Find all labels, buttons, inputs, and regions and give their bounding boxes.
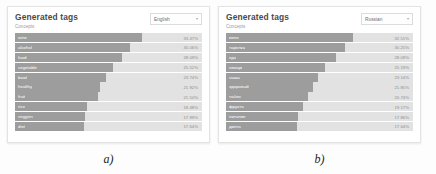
tag-bar-row[interactable]: тарелка30.25% (226, 43, 413, 52)
title-block-a: Generated tags Concepts (15, 12, 78, 30)
tag-bar-fill (15, 33, 142, 42)
tag-bar-label: diet (15, 124, 25, 129)
tag-bar-percent: 17.64% (394, 124, 409, 129)
tag-bar-percent: 28.09% (183, 55, 198, 60)
tag-bar-row[interactable]: healthy21.92% (15, 82, 202, 91)
tag-bar-row[interactable]: alcohol30.06% (15, 43, 202, 52)
tag-bar-row[interactable]: здоровый21.85% (226, 82, 413, 91)
language-select-a[interactable]: English ▾ (150, 13, 202, 25)
tag-bar-label: rice (15, 104, 25, 109)
tag-bar-fill (15, 102, 87, 111)
tag-bar-percent: 23.14% (394, 75, 409, 80)
tag-bar-percent: 17.99% (183, 114, 198, 119)
tag-bar-label: вино (226, 35, 239, 40)
tag-bar-fill (15, 73, 106, 82)
card-header-a: Generated tags Concepts English ▾ (8, 7, 209, 30)
tag-bar-row[interactable]: овощи25.19% (226, 63, 413, 72)
tag-bar-fill (15, 43, 130, 52)
tag-bar-row[interactable]: табло20.74% (226, 92, 413, 101)
panel-a: Generated tags Concepts English ▾ wine33… (7, 6, 210, 166)
tag-bar-label: фрукты (226, 104, 244, 109)
tag-bar-percent: 20.74% (394, 94, 409, 99)
tag-bar-percent: 19.17% (394, 104, 409, 109)
chevron-down-icon: ▾ (407, 17, 409, 21)
figure-caption-b: b) (315, 152, 325, 166)
tag-bar-percent: 21.50% (183, 94, 198, 99)
tag-bar-fill (226, 73, 318, 82)
tag-bar-label: чаша (226, 75, 240, 80)
chevron-down-icon: ▾ (196, 17, 198, 21)
title-block-b: Generated tags Concepts (226, 12, 289, 30)
tag-bar-fill (15, 92, 98, 101)
tag-bar-label: food (15, 55, 27, 60)
tag-bar-label: диета (226, 124, 241, 129)
card-subtitle: Concepts (15, 23, 78, 30)
tag-bar-row[interactable]: диета17.64% (226, 122, 413, 131)
tag-bar-label: veggies (15, 114, 33, 119)
tag-bar-percent: 33.47% (183, 35, 198, 40)
tag-bar-row[interactable]: еда28.09% (226, 53, 413, 62)
tag-bar-list-b: вино32.51%тарелка30.25%еда28.09%овощи25.… (219, 33, 420, 131)
tag-bar-label: тарелка (226, 45, 245, 50)
language-select-b[interactable]: Russian ▾ (361, 13, 413, 25)
tag-bar-row[interactable]: bowl23.74% (15, 73, 202, 82)
tag-bar-label: табло (226, 94, 241, 99)
figure-container: Generated tags Concepts English ▾ wine33… (0, 0, 436, 174)
tag-bar-percent: 21.92% (183, 84, 198, 89)
tag-bar-percent: 30.06% (183, 45, 198, 50)
tag-bar-percent: 25.52% (183, 65, 198, 70)
tag-bar-fill (15, 53, 122, 62)
tag-bar-percent: 30.25% (394, 45, 409, 50)
tag-bar-percent: 17.86% (394, 114, 409, 119)
tag-bar-row[interactable]: veggies17.99% (15, 112, 202, 121)
tag-bar-label: bowl (15, 75, 27, 80)
panels-row: Generated tags Concepts English ▾ wine33… (0, 0, 436, 166)
tag-bar-row[interactable]: fruit21.50% (15, 92, 202, 101)
card-header-b: Generated tags Concepts Russian ▾ (219, 7, 420, 30)
tag-bar-label: питание (226, 114, 246, 119)
tag-bar-fill (226, 33, 353, 42)
tag-bar-label: fruit (15, 94, 25, 99)
tag-bar-row[interactable]: diet17.64% (15, 122, 202, 131)
tag-bar-list-a: wine33.47%alcohol30.06%food28.09%vegetab… (8, 33, 209, 131)
tag-bar-row[interactable]: rice18.48% (15, 102, 202, 111)
tag-bar-row[interactable]: вино32.51% (226, 33, 413, 42)
tag-bar-percent: 17.64% (183, 124, 198, 129)
page-title: Generated tags (15, 12, 78, 22)
generated-tags-card-a: Generated tags Concepts English ▾ wine33… (7, 6, 210, 143)
tag-bar-label: еда (226, 55, 236, 60)
tag-bar-label: healthy (15, 84, 32, 89)
tag-bar-row[interactable]: фрукты19.17% (226, 102, 413, 111)
page-title: Generated tags (226, 12, 289, 22)
tag-bar-row[interactable]: wine33.47% (15, 33, 202, 42)
card-footer-a: show me more tags (8, 134, 209, 143)
tag-bar-label: vegetable (15, 65, 37, 70)
tag-bar-row[interactable]: food28.09% (15, 53, 202, 62)
tag-bar-percent: 21.85% (394, 84, 409, 89)
figure-caption-a: a) (104, 152, 114, 166)
tag-bar-percent: 32.51% (394, 35, 409, 40)
panel-b: Generated tags Concepts Russian ▾ вино32… (218, 6, 421, 166)
tag-bar-row[interactable]: vegetable25.52% (15, 63, 202, 72)
generated-tags-card-b: Generated tags Concepts Russian ▾ вино32… (218, 6, 421, 143)
language-select-value: English (154, 17, 170, 22)
tag-bar-label: овощи (226, 65, 242, 70)
tag-bar-label: wine (15, 35, 27, 40)
tag-bar-fill (15, 122, 84, 131)
tag-bar-label: alcohol (15, 45, 32, 50)
tag-bar-percent: 25.19% (394, 65, 409, 70)
tag-bar-label: здоровый (226, 84, 249, 89)
tag-bar-fill (226, 53, 336, 62)
card-subtitle: Concepts (226, 23, 289, 30)
language-select-value: Russian (365, 17, 382, 22)
tag-bar-row[interactable]: чаша23.14% (226, 73, 413, 82)
tag-bar-percent: 28.09% (394, 55, 409, 60)
tag-bar-percent: 23.74% (183, 75, 198, 80)
tag-bar-row[interactable]: питание17.86% (226, 112, 413, 121)
tag-bar-percent: 18.48% (183, 104, 198, 109)
card-footer-b: show me more tags (219, 134, 420, 143)
